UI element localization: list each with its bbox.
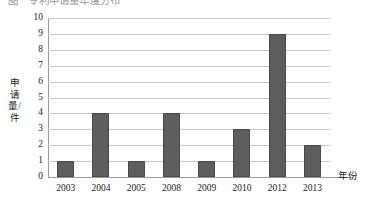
y-axis-tick-label: 7	[1, 59, 48, 72]
y-axis-tick-label: 2	[1, 138, 48, 151]
bar	[198, 161, 215, 177]
bar	[304, 145, 321, 177]
x-axis-tick-label: 2013	[289, 182, 335, 195]
gridline	[48, 177, 353, 178]
y-axis-tick-label: 9	[1, 27, 48, 40]
bar	[163, 113, 180, 177]
gridline	[48, 161, 330, 162]
y-axis-tick-label: 0	[1, 170, 48, 183]
gridline	[48, 98, 330, 99]
gridline	[48, 82, 330, 83]
y-axis-tick-label: 8	[1, 43, 48, 56]
bar-chart: 012345678910 200320042005200820092010201…	[0, 0, 386, 211]
x-axis-label: 年份	[338, 170, 358, 183]
y-axis-label: 申请量/件	[8, 78, 21, 124]
bar	[233, 129, 250, 177]
bar	[92, 113, 109, 177]
y-axis-tick-label: 1	[1, 154, 48, 167]
gridline	[48, 50, 330, 51]
gridline	[48, 145, 330, 146]
gridline	[48, 113, 330, 114]
y-axis-tick-label: 3	[1, 122, 48, 135]
gridline	[48, 129, 330, 130]
bar	[128, 161, 145, 177]
bar	[57, 161, 74, 177]
gridline	[48, 18, 330, 19]
gridline	[48, 66, 330, 67]
bar	[269, 34, 286, 177]
y-axis-tick-label: 10	[1, 11, 48, 24]
gridline	[48, 34, 330, 35]
